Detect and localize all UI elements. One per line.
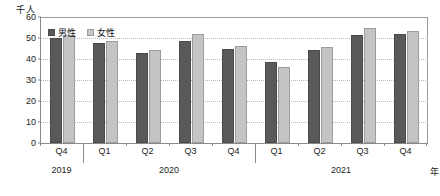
x-axis-tick-label: Q2 — [313, 146, 325, 156]
bar-male[interactable] — [351, 35, 363, 143]
bar-male[interactable] — [308, 50, 320, 143]
x-axis-tick-label: Q3 — [184, 146, 196, 156]
bar-group — [342, 17, 385, 143]
legend-label-male: 男性 — [58, 26, 76, 39]
bar-chart: 千人 0102030405060 男性 女性 Q4Q1Q2Q3Q4Q1Q2Q3Q… — [0, 0, 440, 196]
bar-female[interactable] — [192, 34, 204, 143]
x-axis-group-label: 2019 — [51, 165, 71, 175]
y-axis-tick-label: 50 — [26, 33, 36, 43]
bar-female[interactable] — [321, 47, 333, 143]
y-axis-tick-label: 0 — [31, 138, 36, 148]
x-axis-tick-label: Q4 — [399, 146, 411, 156]
bar-female[interactable] — [149, 50, 161, 143]
legend-swatch-female-icon — [87, 29, 94, 36]
bar-male[interactable] — [179, 41, 191, 143]
bar-female[interactable] — [106, 41, 118, 143]
bar-group — [213, 17, 256, 143]
bar-group — [385, 17, 428, 143]
bar-male[interactable] — [136, 53, 148, 144]
x-axis-tick-mark — [169, 143, 170, 146]
bar-male[interactable] — [394, 34, 406, 143]
x-axis-tick-label: Q1 — [270, 146, 282, 156]
x-axis-tick-label: Q1 — [98, 146, 110, 156]
bar-group — [299, 17, 342, 143]
y-axis-tick-label: 20 — [26, 96, 36, 106]
x-axis-tick-mark — [384, 143, 385, 146]
legend-item-female[interactable]: 女性 — [87, 26, 115, 39]
bar-male[interactable] — [222, 49, 234, 143]
y-axis-tick-label: 30 — [26, 75, 36, 85]
bar-female[interactable] — [278, 67, 290, 143]
y-axis-tick-label: 10 — [26, 117, 36, 127]
x-axis-tick-label: Q2 — [141, 146, 153, 156]
x-axis-group-separator — [83, 144, 84, 163]
bar-male[interactable] — [50, 38, 62, 143]
x-axis-tick-label: Q4 — [55, 146, 67, 156]
x-axis-name-label: 年 — [430, 165, 439, 178]
bar-female[interactable] — [407, 31, 419, 143]
bar-male[interactable] — [265, 62, 277, 143]
x-axis-tick-mark — [341, 143, 342, 146]
bar-group — [170, 17, 213, 143]
x-axis-tick-label: Q4 — [227, 146, 239, 156]
y-axis-tick-label: 60 — [26, 12, 36, 22]
x-axis-group-label: 2020 — [159, 165, 179, 175]
x-axis-tick-mark — [426, 143, 427, 146]
bar-female[interactable] — [63, 35, 75, 143]
bar-group — [256, 17, 299, 143]
x-axis-group-label: 2021 — [331, 165, 351, 175]
legend-label-female: 女性 — [97, 26, 115, 39]
legend-item-male[interactable]: 男性 — [48, 26, 76, 39]
legend: 男性 女性 — [48, 26, 115, 39]
y-axis-tick-label: 40 — [26, 54, 36, 64]
bar-group — [127, 17, 170, 143]
x-axis-tick-mark — [40, 143, 41, 146]
bar-female[interactable] — [235, 46, 247, 143]
x-axis-tick-mark — [212, 143, 213, 146]
x-axis-tick-labels: Q4Q1Q2Q3Q4Q1Q2Q3Q4 — [40, 146, 428, 162]
legend-swatch-male-icon — [48, 29, 55, 36]
x-axis-group-separator — [255, 144, 256, 163]
x-axis-tick-mark — [126, 143, 127, 146]
bar-male[interactable] — [93, 43, 105, 143]
x-axis-tick-label: Q3 — [356, 146, 368, 156]
x-axis-group-labels: 201920202021 — [40, 165, 428, 181]
x-axis-tick-mark — [298, 143, 299, 146]
bar-female[interactable] — [364, 28, 376, 144]
